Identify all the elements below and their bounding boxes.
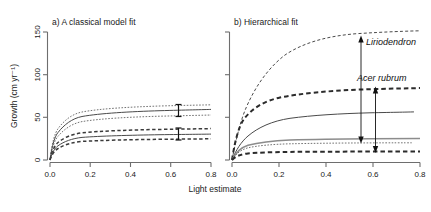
panel-b: b) Hierarchical fit 0.0 0.2 0.4 0.6 0.8	[225, 17, 426, 179]
y-tick-label-0: 0	[33, 157, 42, 162]
panel-a: a) A classical model fit 150 100 50 0 Gr…	[9, 17, 217, 179]
panel-b-x-label-0.6: 0.6	[367, 170, 379, 179]
species-label-acer-rubrum: Acer rubrum	[356, 73, 407, 83]
panel-a-lower-ci-curve	[50, 115, 211, 160]
panel-a-x-label-0.8: 0.8	[205, 170, 217, 179]
y-axis-title: Growth (cm yr⁻¹)	[9, 64, 19, 128]
panel-a-x-label-0.0: 0.0	[44, 170, 56, 179]
panel-a-x-label-0.2: 0.2	[85, 170, 97, 179]
y-tick-label-100: 100	[33, 67, 42, 81]
figure-container: a) A classical model fit 150 100 50 0 Gr…	[0, 0, 431, 212]
species-label-liriodendron: Liriodendron	[366, 37, 416, 47]
panel-a-lower-ci-curve-2	[50, 139, 211, 160]
y-tick-label-50: 50	[33, 112, 42, 121]
panel-b-acer-lower-curve	[232, 152, 420, 160]
x-axis-title: Light estimate	[189, 184, 242, 194]
panel-a-x-label-0.6: 0.6	[165, 170, 177, 179]
panel-a-title: a) A classical model fit	[52, 17, 136, 27]
panel-b-x-label-0.8: 0.8	[414, 170, 426, 179]
y-tick-label-150: 150	[33, 25, 42, 39]
panel-a-upper-ci-curve	[50, 105, 211, 160]
panel-b-liriodendron-upper-curve	[232, 31, 420, 160]
panel-b-x-label-0.0: 0.0	[226, 170, 238, 179]
figure-svg: a) A classical model fit 150 100 50 0 Gr…	[0, 0, 431, 212]
panel-b-mean-low-curve	[232, 139, 420, 161]
panel-a-mean-lower-curve	[50, 134, 211, 160]
panel-b-acer-upper-curve	[232, 88, 420, 160]
panel-b-x-label-0.4: 0.4	[320, 170, 332, 179]
panel-b-x-label-0.2: 0.2	[273, 170, 285, 179]
panel-b-mean-mid-curve	[232, 112, 414, 160]
panel-a-upper-ci-curve-2	[50, 129, 211, 160]
panel-a-x-label-0.4: 0.4	[125, 170, 137, 179]
panel-b-title: b) Hierarchical fit	[234, 17, 298, 27]
